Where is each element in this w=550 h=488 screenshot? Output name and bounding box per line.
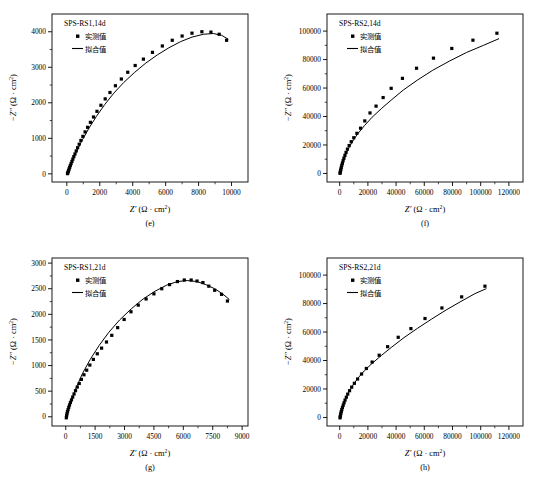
x-tick-label: 2000: [92, 188, 107, 197]
x-tick-label: 20000: [359, 432, 378, 441]
chart-panel-g: 0150030004500600075009000050010001500200…: [0, 244, 275, 488]
data-point-marker: [108, 91, 111, 94]
y-axis-label: −Z″ (Ω · cm2): [8, 74, 18, 122]
x-tick-label: 8000: [191, 188, 206, 197]
x-axis-label: Z′ (Ω · cm2): [405, 448, 446, 458]
y-tick-label: 60000: [303, 84, 322, 93]
x-axis-label: Z′ (Ω · cm2): [130, 448, 171, 458]
x-tick-label: 0: [65, 188, 69, 197]
fitted-curve: [67, 34, 228, 174]
x-tick-label: 4500: [147, 432, 162, 441]
data-point-marker: [114, 84, 117, 87]
fitted-curve: [340, 39, 499, 174]
legend: SPS-RS1,14d实测值拟合值: [64, 19, 107, 54]
x-tick-label: 7500: [205, 432, 220, 441]
data-point-marker: [116, 326, 119, 329]
data-point-marker: [415, 67, 418, 70]
x-tick-label: 80000: [443, 188, 462, 197]
data-point-marker: [120, 77, 123, 80]
panel-caption: (h): [420, 463, 430, 472]
y-tick-label: 100000: [299, 27, 321, 36]
y-tick-label: 3000: [31, 259, 46, 268]
data-point-marker: [142, 58, 145, 61]
y-tick-label: 80000: [303, 299, 322, 308]
y-tick-label: 0: [317, 169, 321, 178]
legend-title: SPS-RS1,21d: [64, 263, 106, 272]
data-point-marker: [401, 77, 404, 80]
data-point-marker: [134, 64, 137, 67]
x-tick-label: 9000: [235, 432, 250, 441]
chart-panel-f: 0200004000060000800001000001200000200004…: [275, 0, 550, 244]
data-point-marker: [368, 111, 371, 114]
panel-caption: (g): [145, 463, 155, 472]
x-axis-label: Z′ (Ω · cm2): [130, 204, 171, 214]
y-tick-label: 0: [42, 170, 46, 179]
y-tick-label: 40000: [303, 112, 322, 121]
legend-label-fitted: 拟合值: [360, 45, 382, 54]
data-point-marker: [200, 30, 203, 33]
data-point-marker: [432, 57, 435, 60]
data-point-marker: [460, 295, 463, 298]
data-point-marker: [390, 87, 393, 90]
legend-marker-square-icon: [351, 279, 354, 282]
data-point-marker: [126, 71, 129, 74]
y-axis-label: −Z″ (Ω · cm2): [283, 74, 293, 122]
legend-label-measured: 实测值: [85, 32, 107, 41]
y-tick-label: 1000: [31, 361, 46, 370]
chart-panel-e: 020004000600080001000001000200030004000S…: [0, 0, 275, 244]
data-point-marker: [105, 340, 108, 343]
legend-marker-square-icon: [76, 279, 79, 282]
data-point-marker: [440, 306, 443, 309]
fitted-curve: [66, 281, 229, 417]
x-tick-label: 6000: [176, 432, 191, 441]
data-point-marker: [171, 39, 174, 42]
x-tick-label: 0: [338, 432, 342, 441]
data-point-marker: [471, 39, 474, 42]
x-tick-label: 40000: [387, 432, 406, 441]
x-tick-label: 3000: [117, 432, 132, 441]
data-point-marker: [123, 318, 126, 321]
y-axis-label: −Z″ (Ω · cm2): [283, 318, 293, 366]
data-point-marker: [99, 104, 102, 107]
data-layer: [65, 278, 230, 419]
data-layer: [338, 285, 486, 420]
y-tick-label: 20000: [303, 385, 322, 394]
data-point-marker: [85, 369, 88, 372]
fitted-curve: [340, 289, 486, 418]
legend-label-fitted: 拟合值: [85, 289, 107, 298]
data-point-marker: [104, 97, 107, 100]
data-point-marker: [483, 285, 486, 288]
y-tick-label: 1500: [31, 336, 46, 345]
y-tick-label: 2000: [31, 98, 46, 107]
plot-frame: [327, 14, 523, 182]
data-point-marker: [161, 44, 164, 47]
x-axis-label: Z′ (Ω · cm2): [405, 204, 446, 214]
x-tick-label: 100000: [470, 432, 492, 441]
data-point-marker: [181, 34, 184, 37]
y-tick-label: 20000: [303, 141, 322, 150]
x-tick-label: 0: [338, 188, 342, 197]
data-point-marker: [495, 32, 498, 35]
y-tick-label: 4000: [31, 27, 46, 36]
chart-panel-h: 0200004000060000800001000001200000200004…: [275, 244, 550, 488]
y-tick-label: 3000: [31, 63, 46, 72]
x-tick-label: 120000: [498, 188, 520, 197]
legend-title: SPS-RS2,14d: [339, 19, 381, 28]
x-tick-label: 20000: [359, 188, 378, 197]
x-tick-label: 1500: [88, 432, 103, 441]
legend-label-fitted: 拟合值: [360, 289, 382, 298]
nyquist-plot-f: 0200004000060000800001000001200000200004…: [275, 0, 550, 244]
legend-title: SPS-RS2,21d: [339, 263, 381, 272]
x-tick-label: 80000: [443, 432, 462, 441]
data-point-marker: [92, 115, 95, 118]
x-tick-label: 60000: [415, 188, 434, 197]
y-tick-label: 2500: [31, 284, 46, 293]
data-point-marker: [151, 51, 154, 54]
plot-frame: [327, 258, 523, 426]
data-point-marker: [110, 334, 113, 337]
x-tick-label: 0: [64, 432, 68, 441]
data-point-marker: [95, 110, 98, 113]
y-tick-label: 80000: [303, 55, 322, 64]
data-point-marker: [363, 119, 366, 122]
y-tick-label: 60000: [303, 328, 322, 337]
